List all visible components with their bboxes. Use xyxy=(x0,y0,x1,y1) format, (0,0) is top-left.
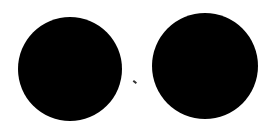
speck xyxy=(133,80,137,84)
left-circle xyxy=(18,17,122,121)
right-circle xyxy=(152,13,258,119)
